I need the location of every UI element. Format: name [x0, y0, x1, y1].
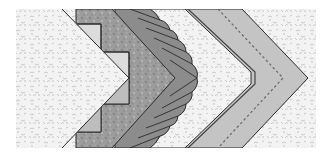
- quilt-diagram: [0, 0, 326, 159]
- quilt-corner-illustration: [0, 0, 326, 159]
